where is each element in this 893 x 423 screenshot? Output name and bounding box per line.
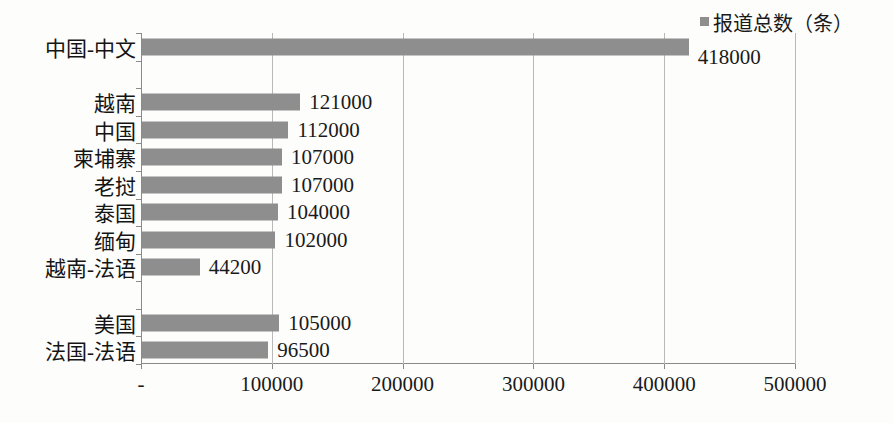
- bar-value-label: 112000: [297, 117, 359, 142]
- category-label: 中国: [94, 115, 136, 145]
- plot-area: 4180001210001120001070001070001040001020…: [141, 33, 795, 364]
- chart-row: [141, 281, 795, 309]
- bar-value-label: 121000: [309, 89, 372, 114]
- chart-row: 107000: [141, 143, 795, 171]
- bar: [142, 314, 279, 331]
- x-axis-tick-label: 100000: [240, 372, 303, 397]
- x-axis-tick: [403, 364, 404, 369]
- bar-value-label: 104000: [287, 200, 350, 225]
- chart-row: [141, 61, 795, 89]
- x-axis-tick: [272, 364, 273, 369]
- x-axis-tick-label: 400000: [633, 372, 696, 397]
- bar: [142, 231, 275, 248]
- chart-row: 102000: [141, 226, 795, 254]
- bar-value-label: 96500: [277, 338, 330, 363]
- category-label: 中国-中文: [45, 32, 136, 62]
- bar: [142, 149, 282, 166]
- y-axis-tick: [136, 364, 141, 365]
- bar-value-label: 105000: [288, 310, 351, 335]
- category-label: 老挝: [94, 170, 136, 200]
- bar: [142, 176, 282, 193]
- x-axis-tick: [664, 364, 665, 369]
- chart-row: 96500: [141, 336, 795, 364]
- gridline: [795, 33, 796, 364]
- category-label: 法国-法语: [45, 335, 136, 365]
- bar-value-label: 44200: [209, 255, 262, 280]
- category-label: 越南-法语: [45, 252, 136, 282]
- x-axis-tick-label: 300000: [502, 372, 565, 397]
- bar: [142, 259, 200, 276]
- category-label: 越南: [94, 87, 136, 117]
- chart-row: 121000: [141, 88, 795, 116]
- x-axis-tick-label: 200000: [371, 372, 434, 397]
- chart-row: 112000: [141, 116, 795, 144]
- x-axis-tick-label: 500000: [764, 372, 827, 397]
- legend-swatch-icon: [700, 17, 709, 26]
- category-label: 泰国: [94, 197, 136, 227]
- bar: [142, 38, 689, 55]
- bar-value-label: 107000: [291, 172, 354, 197]
- bar: [142, 121, 288, 138]
- category-label: 柬埔寨: [73, 142, 136, 172]
- chart-row: 107000: [141, 171, 795, 199]
- bar: [142, 342, 268, 359]
- chart-row: 44200: [141, 254, 795, 282]
- bar: [142, 93, 300, 110]
- x-axis-tick: [533, 364, 534, 369]
- category-label: 缅甸: [94, 225, 136, 255]
- bar-value-label: 107000: [291, 145, 354, 170]
- category-axis-labels: 中国-中文越南中国柬埔寨老挝泰国缅甸越南-法语美国法国-法语: [0, 33, 136, 364]
- bar-chart: 报道总数（条） 中国-中文越南中国柬埔寨老挝泰国缅甸越南-法语美国法国-法语 4…: [0, 0, 893, 423]
- chart-row: 105000: [141, 309, 795, 337]
- chart-row: 104000: [141, 199, 795, 227]
- bar-value-label: 102000: [284, 227, 347, 252]
- chart-row: 418000: [141, 33, 795, 61]
- x-axis-tick: [141, 364, 142, 369]
- category-label: 美国: [94, 308, 136, 338]
- bar: [142, 204, 278, 221]
- x-axis-tick: [795, 364, 796, 369]
- x-axis-tick-label: -: [138, 372, 145, 397]
